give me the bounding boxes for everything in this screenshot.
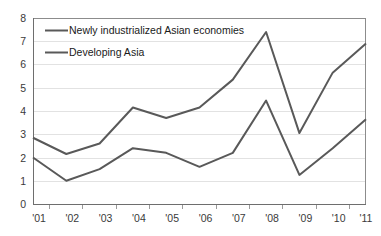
x-tick-label: '06 [199,212,213,224]
y-axis-labels: 8 7 6 5 4 3 2 1 0 [20,12,26,210]
x-tick-label: '09 [299,212,313,224]
x-axis-labels: '01 '02 '03 '04 '05 '06 '07 '08 '09 '10 … [32,212,372,224]
legend-label-developing-asia: Developing Asia [69,46,144,58]
x-tick-label: '04 [132,212,146,224]
x-tick-label: '10 [332,212,346,224]
y-tick-label: 2 [20,152,26,164]
x-tick-label: '02 [65,212,79,224]
y-tick-label: 7 [20,35,26,47]
x-tick-label: '05 [165,212,179,224]
y-tick-label: 0 [20,198,26,210]
x-tick-label: '07 [232,212,246,224]
y-tick-label: 1 [20,175,26,187]
y-tick-label: 5 [20,82,26,94]
y-tick-label: 3 [20,128,26,140]
y-tick-label: 8 [20,12,26,24]
x-tick-label: '08 [265,212,279,224]
y-tick-label: 6 [20,58,26,70]
y-tick-label: 4 [20,105,26,117]
legend-label-newly-industrialized-asian-economies: Newly industrialized Asian economies [69,24,244,36]
x-tickmarks [50,205,350,210]
chart-canvas: 8 7 6 5 4 3 2 1 0 '01 '02 '03 '04 '05 '0… [0,0,381,236]
x-tick-label: '11 [360,212,373,224]
x-tick-label: '03 [99,212,113,224]
line-chart: 8 7 6 5 4 3 2 1 0 '01 '02 '03 '04 '05 '0… [0,0,381,236]
x-tick-label: '01 [32,212,46,224]
